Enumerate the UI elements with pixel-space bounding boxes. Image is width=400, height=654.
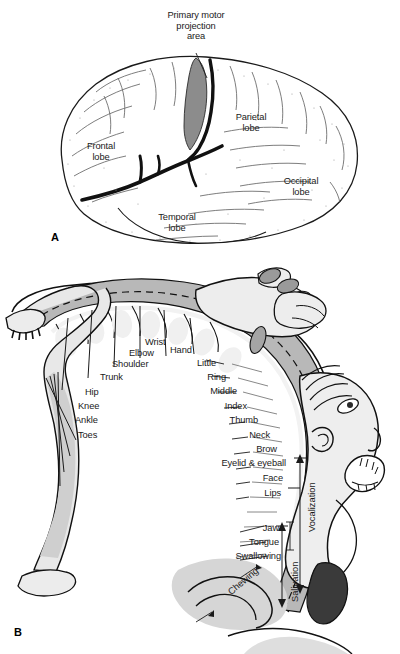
homunculus-foot-lower bbox=[18, 570, 76, 596]
panel-a-letter: A bbox=[51, 231, 59, 243]
homunculus-pupil bbox=[347, 402, 353, 408]
occipital-lobe-line-2: lobe bbox=[284, 187, 319, 198]
homunculus-jaw-contour bbox=[336, 500, 356, 574]
label-wrist: Wrist bbox=[145, 337, 166, 348]
label-elbow: Elbow bbox=[129, 348, 154, 359]
label-jaw: Jaw bbox=[263, 523, 279, 534]
callout-line-3: area bbox=[167, 31, 224, 42]
panel-b-letter: B bbox=[14, 626, 22, 638]
label-trunk: Trunk bbox=[100, 372, 123, 383]
panel-b-motor-homunculus: Wrist Hand Elbow Shoulder Trunk Hip Knee… bbox=[0, 260, 400, 654]
label-neck: Neck bbox=[249, 430, 270, 441]
sylvian-branch-2 bbox=[158, 156, 160, 174]
temporal-lobe-label: Temporal lobe bbox=[158, 212, 195, 233]
label-salivation: Salivation bbox=[290, 562, 300, 602]
figure-motor-homunculus: Primary motor projection area Frontal lo… bbox=[0, 0, 400, 654]
label-index: Index bbox=[225, 401, 247, 412]
occipital-lobe-label: Occipital lobe bbox=[284, 176, 319, 197]
neck-shading bbox=[244, 637, 348, 654]
label-ring: Ring bbox=[207, 372, 226, 383]
homunculus-tongue-dark bbox=[307, 563, 347, 624]
label-hip: Hip bbox=[85, 387, 99, 398]
panel-b-drawing bbox=[0, 260, 400, 654]
label-tongue: Tongue bbox=[249, 537, 279, 548]
temporal-lobe-line-1: Temporal bbox=[158, 212, 195, 223]
panel-a-brain-lateral-view: Primary motor projection area Frontal lo… bbox=[0, 0, 400, 260]
label-thumb: Thumb bbox=[230, 415, 258, 426]
label-shoulder: Shoulder bbox=[112, 359, 148, 370]
frontal-lobe-line-1: Frontal bbox=[87, 141, 115, 152]
parietal-lobe-label: Parietal lobe bbox=[236, 112, 267, 133]
callout-line-2: projection bbox=[167, 21, 224, 32]
label-vocalization: Vocalization bbox=[307, 482, 317, 532]
primary-motor-callout: Primary motor projection area bbox=[167, 10, 224, 42]
label-swallowing: Swallowing bbox=[235, 551, 281, 562]
occipital-lobe-line-1: Occipital bbox=[284, 176, 319, 187]
frontal-lobe-line-2: lobe bbox=[87, 152, 115, 163]
parietal-lobe-line-2: lobe bbox=[236, 123, 267, 134]
label-knee: Knee bbox=[78, 401, 99, 412]
parietal-lobe-line-1: Parietal bbox=[236, 112, 267, 123]
callout-line-1: Primary motor bbox=[167, 10, 224, 21]
label-eyelid-eyeball: Eyelid & eyeball bbox=[221, 458, 286, 469]
frontal-lobe-label: Frontal lobe bbox=[87, 141, 115, 162]
sylvian-branch-1 bbox=[140, 156, 142, 182]
label-brow: Brow bbox=[256, 444, 277, 455]
label-middle: Middle bbox=[210, 386, 237, 397]
label-ankle: Ankle bbox=[75, 415, 98, 426]
label-lips: Lips bbox=[264, 488, 281, 499]
label-little: Little bbox=[197, 358, 216, 369]
label-toes: Toes bbox=[78, 430, 97, 441]
label-hand: Hand bbox=[170, 345, 192, 356]
temporal-lobe-line-2: lobe bbox=[158, 223, 195, 234]
label-face: Face bbox=[263, 473, 283, 484]
homunculus-foot-upper bbox=[6, 309, 45, 332]
